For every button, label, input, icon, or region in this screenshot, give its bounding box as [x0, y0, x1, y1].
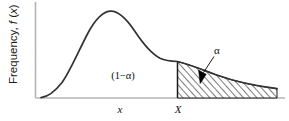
- tail-region-hatch: [176, 55, 288, 101]
- x-tick-label-lower: x: [117, 103, 123, 115]
- x-tick-label-upper: X: [174, 103, 183, 115]
- alpha-leader-line: [204, 57, 215, 73]
- y-axis-title-paren-close: ): [7, 4, 19, 8]
- y-axis-title-prefix: Frequency,: [7, 24, 19, 84]
- body-region-label: (1−α): [111, 70, 135, 82]
- figure-canvas: Frequency, f (x) (1−α) α x X: [0, 0, 289, 121]
- tail-region-label: α: [214, 44, 220, 56]
- y-axis-title: Frequency, f (x): [7, 4, 19, 84]
- distribution-figure: Frequency, f (x) (1−α) α x X: [0, 0, 289, 121]
